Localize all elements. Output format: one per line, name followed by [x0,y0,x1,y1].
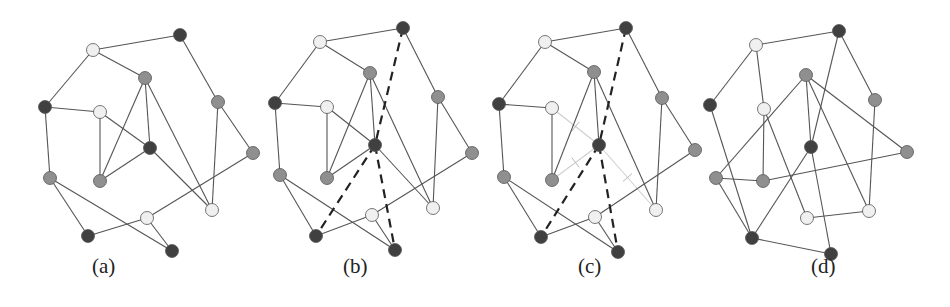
graph-node-gray [800,69,813,82]
graph-edge [370,73,375,145]
graph-node-light [539,36,552,49]
graph-edge [752,238,831,254]
graph-node-dark [174,29,187,42]
graph-node-gray [364,67,377,80]
graph-edge [839,31,875,100]
graph-edge [275,103,327,107]
graph-edge [763,152,907,181]
graph-node-light [87,44,100,57]
graph-edge [594,72,599,145]
graph-node-dark [535,231,548,244]
graph-edge [320,28,403,42]
dashed-edge [541,145,599,237]
graph-node-light [589,211,602,224]
graph-edge [147,153,253,218]
graph-edge [662,98,695,150]
panel-a-graph [39,29,260,258]
graph-node-dark [620,22,633,35]
graph-figure [0,0,950,307]
graph-edge [212,102,218,210]
graph-node-light [206,204,219,217]
graph-node-light [314,36,327,49]
graph-node-light [758,103,771,116]
graph-node-gray [94,175,107,188]
graph-edge [438,97,472,153]
graph-edge [275,42,320,103]
graph-edge [626,28,662,98]
graph-node-light [546,102,559,115]
graph-node-gray [498,171,511,184]
graph-node-gray [139,72,152,85]
graph-edge [756,31,839,45]
graph-node-light [321,101,334,114]
graph-edge [150,148,212,210]
graph-node-gray [274,169,287,182]
graph-edge [756,45,764,109]
graph-edge [180,35,218,102]
graph-edge [218,102,253,153]
graph-node-gray [869,94,882,107]
graph-node-gray [757,175,770,188]
graph-node-light [863,205,876,218]
graph-edge [88,218,147,236]
graph-node-dark [593,139,606,152]
graph-node-gray [689,144,702,157]
graph-edge [320,42,370,73]
graph-edge [499,104,504,177]
graph-node-dark [39,101,52,114]
panel-d-label: (d) [811,254,836,279]
graph-node-gray [588,66,601,79]
graph-edge [316,215,372,236]
graph-node-light [427,202,440,215]
graph-edge [45,107,50,178]
graph-edge [499,42,545,104]
panel-b-graph [269,22,479,257]
panel-b-label: (b) [343,254,368,279]
dashed-edge [316,145,375,236]
graph-edge [375,145,433,208]
graph-edge [869,100,875,211]
panel-d-graph [704,25,914,261]
graph-node-dark [833,25,846,38]
graph-edge [45,50,93,107]
graph-node-dark [805,141,818,154]
graph-node-light [141,212,154,225]
graph-node-gray [432,91,445,104]
graph-edge [710,45,756,105]
panel-c-label: (c) [578,254,601,279]
graph-node-gray [901,146,914,159]
graph-node-dark [82,230,95,243]
dashed-edge [375,28,403,145]
dashed-edge [599,28,626,145]
dashed-edge [599,145,618,252]
graph-node-dark [269,97,282,110]
graph-edge [499,104,552,108]
graph-edge [545,28,626,42]
graph-node-dark [397,22,410,35]
graph-node-gray [321,172,334,185]
graph-edge [716,75,806,178]
graph-edge [504,177,541,237]
graph-edge [806,75,811,147]
graph-node-gray [247,147,260,160]
graph-edge [50,178,88,236]
graph-node-dark [166,245,179,258]
graph-edge [275,103,280,175]
graph-edge [806,75,907,152]
graph-edge [716,178,752,238]
graph-edge [100,112,150,148]
graph-node-dark [746,232,759,245]
graph-edge [93,35,180,50]
graph-node-gray [710,172,723,185]
graph-node-light [801,212,814,225]
graph-node-light [94,106,107,119]
cut-mark-icon [572,158,579,168]
graph-edge [541,217,595,237]
graph-edge [716,178,763,181]
panel-c-graph [493,22,702,259]
panel-a-label: (a) [92,254,115,279]
graph-edge [811,147,831,254]
graph-edge [545,42,594,72]
graph-edge [656,98,662,210]
graph-node-dark [612,246,625,259]
